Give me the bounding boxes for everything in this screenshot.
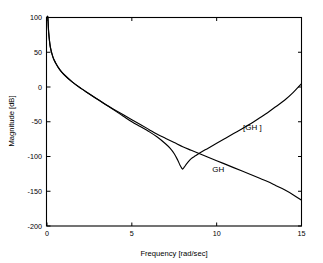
x-tick-label: 10	[213, 229, 221, 238]
y-tick-label: -100	[28, 152, 42, 161]
data-curves	[47, 16, 302, 200]
y-axis-title: Magnitude [dB]	[7, 95, 16, 146]
x-tick-label: 15	[298, 229, 306, 238]
curve-gh	[47, 16, 302, 169]
curve-label-gh: [GH ]	[243, 123, 262, 132]
x-axis-tick-labels: 051015	[45, 229, 306, 238]
y-tick-label: -150	[28, 187, 42, 196]
y-tick-label: 50	[34, 48, 42, 57]
bode-magnitude-figure: 100500-50-100-150-200 051015 [GH ]GH Fre…	[0, 0, 323, 263]
x-tick-label: 0	[45, 229, 49, 238]
x-tick-label: 5	[130, 229, 134, 238]
y-tick-label: 100	[30, 13, 42, 22]
curve-annotations: [GH ]GH	[212, 123, 261, 174]
y-tick-label: -200	[28, 222, 42, 231]
plot-canvas: 100500-50-100-150-200 051015 [GH ]GH Fre…	[0, 0, 323, 263]
y-tick-label: 0	[38, 83, 42, 92]
curve-label-gh: GH	[212, 165, 224, 174]
y-axis-tick-labels: 100500-50-100-150-200	[28, 13, 42, 231]
x-axis-title: Frequency [rad/sec]	[140, 249, 207, 258]
curve-gh	[47, 16, 302, 200]
y-axis-ticks	[47, 18, 302, 227]
y-tick-label: -50	[32, 117, 42, 126]
x-axis-ticks	[47, 18, 302, 227]
plot-frame	[47, 18, 302, 227]
